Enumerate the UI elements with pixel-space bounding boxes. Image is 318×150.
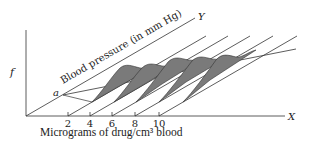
y-axis-label: Y bbox=[198, 11, 206, 22]
a-connector bbox=[63, 95, 92, 102]
point-a-label: a bbox=[53, 87, 59, 98]
x-axis-caption: Micrograms of drug/cm³ blood bbox=[40, 126, 182, 138]
f-axis-label: f bbox=[9, 66, 16, 79]
x-axis-label: X bbox=[287, 111, 296, 122]
slice-line-10 bbox=[159, 36, 297, 116]
